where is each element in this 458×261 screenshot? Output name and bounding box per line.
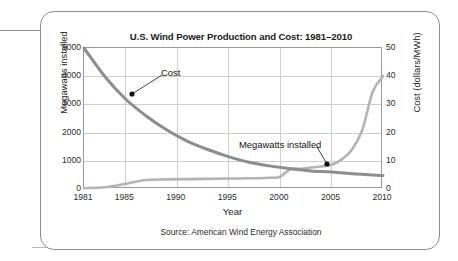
- y-axis-right-tick-label: 40: [386, 70, 412, 80]
- y-axis-left-tick-label: 4000: [47, 70, 81, 80]
- y-axis-right-tick-label: 20: [386, 127, 412, 137]
- y-axis-left-tick-label: 1000: [47, 155, 81, 165]
- y-axis-right-tick-label: 30: [386, 98, 412, 108]
- series-line-cost: [84, 48, 383, 175]
- x-axis-tick-label: 2010: [372, 192, 391, 202]
- x-axis-tick-label: 1985: [115, 192, 134, 202]
- annotation-label-cost: Cost: [161, 67, 180, 78]
- annotation-label-megawatts-installed: Megawatts installed: [239, 139, 321, 150]
- x-axis-tick-label: 2005: [321, 192, 340, 202]
- y-axis-left-tick-label: 3000: [47, 98, 81, 108]
- y-axis-right-tick-label: 50: [386, 42, 412, 52]
- y-axis-left-tick-label: 2000: [47, 127, 81, 137]
- x-axis-tick-label: 1995: [218, 192, 237, 202]
- chart-title: U.S. Wind Power Production and Cost: 198…: [41, 31, 441, 42]
- chart-card: U.S. Wind Power Production and Cost: 198…: [40, 11, 440, 250]
- plot-area: [83, 47, 382, 188]
- x-axis-tick-label: 1990: [166, 192, 185, 202]
- x-axis-ticks: 1981198519901995200020052010: [83, 192, 382, 206]
- y-axis-right-tick-label: 10: [386, 155, 412, 165]
- x-axis-tick-label: 2000: [269, 192, 288, 202]
- series-canvas: [84, 48, 383, 189]
- y-axis-left-ticks: 010002000300040005000: [43, 47, 81, 188]
- figure-stage: U.S. Wind Power Production and Cost: 198…: [0, 0, 458, 261]
- x-axis-title: Year: [83, 206, 382, 217]
- source-note: Source: American Wind Energy Association: [41, 227, 441, 237]
- x-axis-tick-label: 1981: [73, 192, 92, 202]
- y-axis-left-tick-label: 5000: [47, 42, 81, 52]
- y-axis-right-ticks: 01020304050: [386, 47, 414, 188]
